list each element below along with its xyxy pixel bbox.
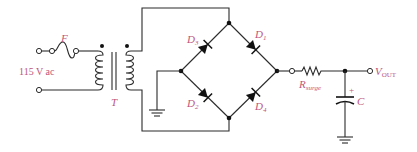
input-terminal-bottom (36, 87, 41, 92)
surge-resistor (302, 67, 323, 75)
d3-label: D3 (186, 33, 199, 47)
cap-polarity-label: + (349, 85, 354, 95)
fuse-symbol (55, 42, 79, 58)
d2-label: D2 (186, 97, 199, 111)
fuse-label: F (60, 32, 68, 44)
transformer-symbol (96, 44, 134, 90)
rsurge-label: Rsurge (298, 78, 321, 92)
vout-label: VOUT (375, 65, 397, 79)
cap-label: C (357, 95, 365, 107)
ground-icon-2 (337, 137, 353, 143)
bridge-rectifier-schematic: F 115 V ac T (0, 0, 417, 152)
ground-icon (149, 110, 165, 116)
source-voltage-label: 115 V ac (19, 66, 55, 77)
d4-label: D4 (254, 100, 267, 114)
output-terminal (289, 68, 294, 73)
transformer-label: T (111, 96, 118, 108)
input-terminal-top (36, 48, 54, 53)
d1-label: D1 (254, 28, 266, 42)
vout-terminal (367, 68, 372, 73)
